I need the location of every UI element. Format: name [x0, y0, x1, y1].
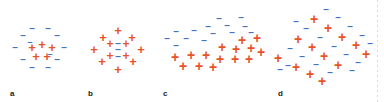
positive-charge-icon: + — [274, 51, 282, 65]
negative-charge-icon: – — [229, 28, 235, 38]
positive-charge-icon: + — [187, 48, 195, 62]
positive-charge-icon: + — [310, 12, 318, 26]
negative-charge-icon: – — [164, 34, 170, 44]
negative-charge-icon: – — [317, 33, 323, 43]
positive-charge-icon: + — [352, 38, 360, 52]
negative-charge-icon: – — [115, 52, 121, 62]
panel-label-d: d — [278, 89, 283, 98]
negative-charge-icon: – — [29, 24, 35, 34]
negative-charge-icon: – — [173, 27, 179, 37]
positive-charge-icon: + — [362, 47, 370, 61]
positive-charge-icon: + — [338, 30, 346, 44]
positive-charge-icon: + — [292, 60, 300, 74]
page-edge-rule — [377, 0, 378, 102]
negative-charge-icon: – — [183, 34, 189, 44]
positive-charge-icon: + — [245, 52, 253, 66]
negative-charge-icon: – — [54, 55, 60, 65]
positive-charge-icon: + — [324, 21, 332, 35]
positive-charge-icon: + — [294, 32, 302, 46]
panel-label-a: a — [10, 89, 14, 98]
positive-charge-icon: + — [129, 55, 137, 68]
negative-charge-icon: – — [216, 14, 222, 24]
panel-label-c: c — [163, 89, 167, 98]
negative-charge-icon: – — [61, 43, 67, 53]
negative-charge-icon: – — [335, 13, 341, 23]
positive-charge-icon: + — [32, 50, 40, 63]
positive-charge-icon: + — [320, 49, 328, 63]
negative-charge-icon: – — [331, 42, 337, 52]
panel-c: ––––––––––––––+++++++++++++++c — [156, 0, 266, 102]
positive-charge-icon: + — [171, 50, 179, 64]
positive-charge-icon: + — [257, 45, 265, 59]
positive-charge-icon: + — [216, 52, 224, 66]
negative-charge-icon: – — [277, 65, 283, 75]
negative-charge-icon: – — [12, 43, 18, 53]
charge-field-b: ++++++++++++––– — [82, 0, 156, 82]
positive-charge-icon: + — [308, 40, 316, 54]
negative-charge-icon: – — [45, 24, 51, 34]
negative-charge-icon: – — [20, 55, 26, 65]
negative-charge-icon: – — [45, 63, 51, 73]
positive-charge-icon: + — [137, 43, 145, 56]
panel-d: –+––+–+–+––+–++–+–+–+–+–+––+–––d — [266, 0, 384, 102]
negative-charge-icon: – — [210, 29, 216, 39]
panel-b: ++++++++++++–––b — [82, 0, 156, 102]
positive-charge-icon: + — [334, 58, 342, 72]
negative-charge-icon: – — [29, 63, 35, 73]
positive-charge-icon: + — [195, 59, 203, 73]
positive-charge-icon: + — [90, 43, 98, 56]
negative-charge-icon: – — [191, 26, 197, 36]
negative-charge-icon: – — [349, 66, 355, 76]
negative-charge-icon: – — [343, 50, 349, 60]
negative-charge-icon: – — [323, 5, 329, 15]
charge-field-d: –+––+–+–+––+–++–+–+–+–+–+––+––– — [266, 0, 384, 82]
negative-charge-icon: – — [20, 31, 26, 41]
negative-charge-icon: – — [293, 17, 299, 27]
positive-charge-icon: + — [114, 63, 122, 76]
charge-field-c: ––––––––––––––+++++++++++++++ — [156, 0, 266, 82]
negative-charge-icon: – — [242, 22, 248, 32]
negative-charge-icon: – — [201, 36, 207, 46]
positive-charge-icon: + — [306, 67, 314, 81]
negative-charge-icon: – — [285, 61, 291, 71]
panel-a: ––––––––––––+++++a — [0, 0, 82, 102]
charge-distribution-figure: ––––––––––––+++++a++++++++++++–––b––––––… — [0, 0, 384, 102]
positive-charge-icon: + — [318, 74, 326, 88]
negative-charge-icon: – — [287, 44, 293, 54]
positive-charge-icon: + — [209, 60, 217, 74]
positive-charge-icon: + — [179, 59, 187, 73]
positive-charge-icon: + — [98, 55, 106, 68]
positive-charge-icon: + — [106, 50, 113, 62]
charge-field-a: ––––––––––––+++++ — [0, 0, 82, 82]
positive-charge-icon: + — [43, 50, 51, 63]
negative-charge-icon: – — [327, 68, 333, 78]
positive-charge-icon: + — [114, 24, 122, 37]
negative-charge-icon: – — [367, 39, 373, 49]
negative-charge-icon: – — [355, 58, 361, 68]
negative-charge-icon: – — [303, 24, 309, 34]
panel-label-b: b — [88, 89, 93, 98]
negative-charge-icon: – — [347, 22, 353, 32]
positive-charge-icon: + — [122, 50, 129, 62]
positive-charge-icon: + — [231, 52, 239, 66]
